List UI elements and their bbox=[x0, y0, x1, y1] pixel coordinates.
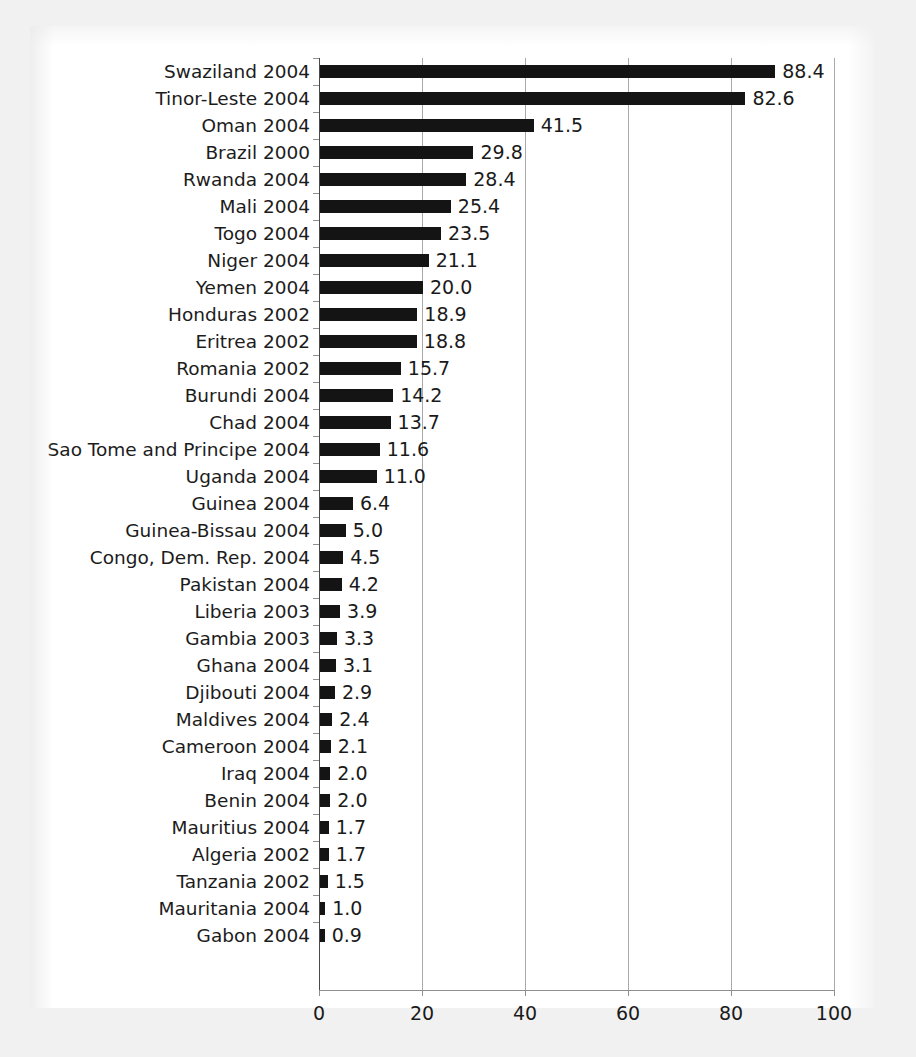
x-tick-label: 20 bbox=[410, 1002, 434, 1024]
category-label: Swaziland 2004 bbox=[164, 58, 310, 85]
bar-row: Ghana 20043.1 bbox=[319, 652, 834, 679]
category-label: Gambia 2003 bbox=[185, 625, 310, 652]
bar-value-label: 28.4 bbox=[473, 166, 515, 193]
bar bbox=[320, 389, 393, 402]
bar-row: Eritrea 200218.8 bbox=[319, 328, 834, 355]
category-label: Honduras 2002 bbox=[168, 301, 310, 328]
category-label: Burundi 2004 bbox=[185, 382, 310, 409]
bar-row: Liberia 20033.9 bbox=[319, 598, 834, 625]
bar-row: Uganda 200411.0 bbox=[319, 463, 834, 490]
y-tick-mark bbox=[313, 193, 319, 194]
bar bbox=[320, 524, 346, 537]
bar bbox=[320, 119, 534, 132]
bar-row: Sao Tome and Principe 200411.6 bbox=[319, 436, 834, 463]
y-tick-mark bbox=[313, 841, 319, 842]
category-label: Niger 2004 bbox=[207, 247, 310, 274]
bar-value-label: 3.1 bbox=[343, 652, 373, 679]
bar-value-label: 5.0 bbox=[353, 517, 383, 544]
y-tick-mark bbox=[313, 328, 319, 329]
bar bbox=[320, 308, 417, 321]
bar-row: Pakistan 20044.2 bbox=[319, 571, 834, 598]
x-tick-label: 100 bbox=[816, 1002, 852, 1024]
bar-value-label: 18.8 bbox=[424, 328, 466, 355]
category-label: Eritrea 2002 bbox=[195, 328, 310, 355]
bar-row: Cameroon 20042.1 bbox=[319, 733, 834, 760]
category-label: Brazil 2000 bbox=[205, 139, 310, 166]
x-tick-label: 0 bbox=[313, 1002, 325, 1024]
bar bbox=[320, 254, 429, 267]
category-label: Mali 2004 bbox=[219, 193, 310, 220]
category-label: Benin 2004 bbox=[204, 787, 310, 814]
y-tick-mark bbox=[313, 85, 319, 86]
category-label: Cameroon 2004 bbox=[162, 733, 310, 760]
y-tick-mark bbox=[313, 112, 319, 113]
category-label: Sao Tome and Principe 2004 bbox=[48, 436, 310, 463]
bar bbox=[320, 416, 391, 429]
bar-row: Brazil 200029.8 bbox=[319, 139, 834, 166]
y-tick-mark bbox=[313, 436, 319, 437]
bar bbox=[320, 146, 473, 159]
bar-value-label: 21.1 bbox=[436, 247, 478, 274]
bar bbox=[320, 632, 337, 645]
bar bbox=[320, 497, 353, 510]
bar-row: Maldives 20042.4 bbox=[319, 706, 834, 733]
category-label: Ghana 2004 bbox=[197, 652, 310, 679]
bar bbox=[320, 578, 342, 591]
bar-row: Congo, Dem. Rep. 20044.5 bbox=[319, 544, 834, 571]
category-label: Tinor-Leste 2004 bbox=[155, 85, 310, 112]
bar-value-label: 0.9 bbox=[332, 922, 362, 949]
bar bbox=[320, 929, 325, 942]
category-label: Gabon 2004 bbox=[197, 922, 310, 949]
bar-value-label: 2.1 bbox=[338, 733, 368, 760]
bar bbox=[320, 740, 331, 753]
bar-chart: 020406080100 Swaziland 200488.4Tinor-Les… bbox=[0, 0, 916, 1057]
bar-row: Iraq 20042.0 bbox=[319, 760, 834, 787]
y-tick-mark bbox=[313, 247, 319, 248]
category-label: Iraq 2004 bbox=[221, 760, 310, 787]
bar bbox=[320, 65, 775, 78]
bar bbox=[320, 659, 336, 672]
bar-value-label: 29.8 bbox=[480, 139, 522, 166]
category-label: Mauritius 2004 bbox=[172, 814, 311, 841]
bar bbox=[320, 821, 329, 834]
bar-row: Chad 200413.7 bbox=[319, 409, 834, 436]
bar-row: Togo 200423.5 bbox=[319, 220, 834, 247]
bar bbox=[320, 848, 329, 861]
x-tick-mark-80 bbox=[731, 990, 732, 996]
scanned-page: 020406080100 Swaziland 200488.4Tinor-Les… bbox=[0, 0, 916, 1057]
bar-value-label: 3.9 bbox=[347, 598, 377, 625]
bar bbox=[320, 92, 745, 105]
y-tick-mark bbox=[313, 517, 319, 518]
category-label: Maldives 2004 bbox=[176, 706, 310, 733]
plot-area: 020406080100 Swaziland 200488.4Tinor-Les… bbox=[319, 58, 834, 990]
category-label: Congo, Dem. Rep. 2004 bbox=[90, 544, 310, 571]
y-tick-mark bbox=[313, 463, 319, 464]
x-tick-label: 80 bbox=[719, 1002, 743, 1024]
bar-value-label: 1.5 bbox=[335, 868, 365, 895]
bar-row: Mali 200425.4 bbox=[319, 193, 834, 220]
bar-value-label: 2.0 bbox=[337, 760, 367, 787]
y-tick-mark bbox=[313, 139, 319, 140]
y-tick-mark bbox=[313, 787, 319, 788]
bar-row: Benin 20042.0 bbox=[319, 787, 834, 814]
y-tick-mark bbox=[313, 58, 319, 59]
bar bbox=[320, 173, 466, 186]
category-label: Romania 2002 bbox=[176, 355, 310, 382]
bar-value-label: 2.9 bbox=[342, 679, 372, 706]
y-tick-mark bbox=[313, 166, 319, 167]
bar-value-label: 1.7 bbox=[336, 814, 366, 841]
category-label: Guinea 2004 bbox=[191, 490, 310, 517]
category-label: Yemen 2004 bbox=[196, 274, 310, 301]
category-label: Algeria 2002 bbox=[192, 841, 310, 868]
x-tick-mark-0 bbox=[319, 990, 320, 996]
bar bbox=[320, 227, 441, 240]
gridline-100 bbox=[834, 58, 835, 990]
bar bbox=[320, 875, 328, 888]
category-label: Tanzania 2002 bbox=[176, 868, 310, 895]
x-tick-mark-40 bbox=[525, 990, 526, 996]
bar-value-label: 13.7 bbox=[398, 409, 440, 436]
bar-value-label: 23.5 bbox=[448, 220, 490, 247]
y-tick-mark bbox=[313, 814, 319, 815]
category-label: Uganda 2004 bbox=[186, 463, 310, 490]
bar-value-label: 82.6 bbox=[752, 85, 794, 112]
